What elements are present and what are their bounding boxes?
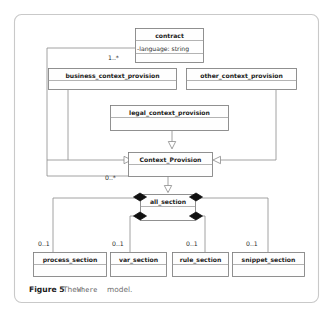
multiplicity-snippet-section: 0..1: [246, 240, 258, 247]
caption-label: Figure 5: [29, 285, 64, 294]
class-box-context-provision[interactable]: Context_Provision: [129, 153, 213, 177]
class-box-legal-context-provision[interactable]: legal_context_provision: [111, 106, 229, 131]
class-box-rule-section[interactable]: rule_section: [173, 253, 229, 277]
class-name-rule-section: rule_section: [180, 256, 222, 264]
class-name-legal-context-provision: legal_context_provision: [129, 109, 210, 117]
class-box-var-section[interactable]: var_section: [111, 253, 167, 277]
class-box-business-context-provision[interactable]: business_context_provision: [49, 69, 177, 90]
figure-caption: Figure 5 The Where model.: [29, 285, 132, 294]
multiplicity-contract-context-provision: 1..*: [108, 54, 119, 61]
class-name-process-section: process_section: [43, 256, 98, 264]
multiplicity-process-section: 0..1: [38, 240, 50, 247]
class-box-all-section[interactable]: all_section: [141, 195, 196, 221]
class-name-all-section: all_section: [150, 198, 186, 206]
class-name-other-context-provision: other_context_provision: [200, 72, 283, 80]
class-name-contract: contract: [155, 32, 184, 39]
multiplicity-rule-section: 0..1: [186, 240, 198, 247]
class-box-contract[interactable]: contract -language: string: [136, 29, 204, 63]
uml-class-diagram: contract -language: string business_cont…: [0, 0, 332, 317]
class-name-context-provision: Context_Provision: [140, 156, 202, 164]
multiplicity-context-provision-all-section: 0..*: [105, 174, 116, 181]
class-attribute-contract: -language: string: [137, 45, 189, 53]
caption-monospace-term: Where: [77, 286, 97, 294]
multiplicity-var-section: 0..1: [112, 240, 124, 247]
class-box-process-section[interactable]: process_section: [34, 253, 107, 277]
class-name-business-context-provision: business_context_provision: [65, 72, 159, 80]
figure-page: contract -language: string business_cont…: [0, 0, 332, 317]
class-name-snippet-section: snippet_section: [242, 256, 296, 264]
class-box-other-context-provision[interactable]: other_context_provision: [187, 69, 297, 90]
caption-text-before: The: [62, 285, 77, 294]
class-name-var-section: var_section: [119, 256, 158, 264]
class-box-snippet-section[interactable]: snippet_section: [233, 253, 305, 277]
caption-text-after: model.: [107, 285, 132, 294]
